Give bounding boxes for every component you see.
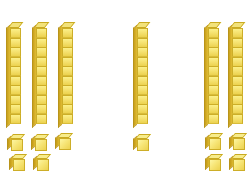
rod-unit-segment [62, 47, 73, 57]
rod-unit-segment [208, 38, 219, 48]
rod-unit-segment [10, 95, 21, 105]
rod-unit-segment [208, 47, 219, 57]
cube-front-face [11, 139, 23, 151]
unit-cube[interactable] [9, 154, 26, 171]
rod-unit-segment [137, 38, 148, 48]
tens-rod-front-face [137, 28, 148, 124]
rod-unit-segment [232, 104, 243, 114]
unit-cube[interactable] [55, 133, 72, 150]
rod-unit-segment [36, 28, 47, 38]
base-ten-blocks-canvas: Base-ten blocks Group 135Group 211Group … [0, 0, 250, 176]
rod-unit-segment [10, 76, 21, 86]
cube-front-face [37, 159, 49, 171]
rod-unit-segment [10, 104, 21, 114]
unit-cube[interactable] [7, 134, 24, 151]
rod-unit-segment [232, 47, 243, 57]
rod-unit-segment [10, 28, 21, 38]
unit-cube[interactable] [33, 154, 50, 171]
unit-cube[interactable] [205, 154, 222, 171]
cube-front-face [59, 138, 71, 150]
group-total-value: 35 [0, 0, 1, 1]
rod-unit-segment [36, 57, 47, 67]
rod-unit-segment [137, 28, 148, 38]
rod-unit-segment [36, 114, 47, 124]
rod-unit-segment [36, 104, 47, 114]
rod-unit-segment [62, 38, 73, 48]
rod-unit-segment [208, 28, 219, 38]
rod-unit-segment [10, 57, 21, 67]
scene-title: Base-ten blocks [0, 0, 1, 1]
rod-unit-segment [137, 47, 148, 57]
rod-unit-segment [232, 76, 243, 86]
cube-front-face [35, 139, 47, 151]
rod-unit-segment [232, 85, 243, 95]
rod-unit-segment [208, 95, 219, 105]
group-total-value: 11 [0, 0, 1, 1]
rod-unit-segment [232, 57, 243, 67]
group-label: Group 3 [0, 0, 1, 1]
tens-rod-front-face [10, 28, 21, 124]
rod-unit-segment [62, 57, 73, 67]
rod-unit-segment [208, 66, 219, 76]
rod-unit-segment [232, 66, 243, 76]
rod-unit-segment [10, 38, 21, 48]
rod-unit-segment [10, 66, 21, 76]
rod-unit-segment [62, 28, 73, 38]
rod-unit-segment [137, 57, 148, 67]
tens-rod-front-face [62, 28, 73, 124]
rod-unit-segment [62, 85, 73, 95]
rod-unit-segment [36, 76, 47, 86]
rod-unit-segment [10, 47, 21, 57]
group-total-value: 24 [0, 0, 1, 1]
group-label: Group 2 [0, 0, 1, 1]
rod-unit-segment [208, 114, 219, 124]
rod-unit-segment [62, 114, 73, 124]
unit-cube[interactable] [229, 133, 246, 150]
rod-unit-segment [62, 76, 73, 86]
rod-unit-segment [62, 66, 73, 76]
rod-unit-segment [137, 76, 148, 86]
rod-unit-segment [10, 85, 21, 95]
rod-unit-segment [137, 95, 148, 105]
cube-front-face [209, 138, 221, 150]
tens-rod-front-face [232, 28, 243, 124]
rod-unit-segment [137, 114, 148, 124]
rod-unit-segment [62, 104, 73, 114]
rod-unit-segment [208, 85, 219, 95]
tens-rod-front-face [208, 28, 219, 124]
cube-front-face [13, 159, 25, 171]
unit-cube[interactable] [229, 154, 246, 171]
rod-unit-segment [10, 114, 21, 124]
rod-unit-segment [36, 47, 47, 57]
rod-unit-segment [36, 66, 47, 76]
rod-unit-segment [36, 95, 47, 105]
rod-unit-segment [232, 114, 243, 124]
rod-unit-segment [208, 76, 219, 86]
unit-cube[interactable] [205, 133, 222, 150]
group-label: Group 1 [0, 0, 1, 1]
rod-unit-segment [137, 104, 148, 114]
unit-cube[interactable] [133, 134, 150, 151]
rod-unit-segment [232, 95, 243, 105]
cube-front-face [209, 159, 221, 171]
rod-unit-segment [232, 38, 243, 48]
rod-unit-segment [62, 95, 73, 105]
rod-unit-segment [137, 66, 148, 76]
rod-unit-segment [36, 38, 47, 48]
cube-front-face [137, 139, 149, 151]
cube-front-face [233, 159, 245, 171]
unit-cube[interactable] [31, 134, 48, 151]
rod-unit-segment [36, 85, 47, 95]
cube-front-face [233, 138, 245, 150]
rod-unit-segment [208, 104, 219, 114]
rod-unit-segment [137, 85, 148, 95]
rod-unit-segment [208, 57, 219, 67]
tens-rod-front-face [36, 28, 47, 124]
rod-unit-segment [232, 28, 243, 38]
